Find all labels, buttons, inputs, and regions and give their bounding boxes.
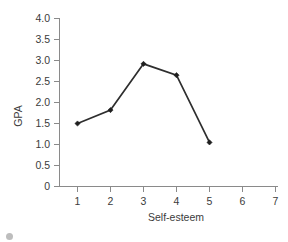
x-tick-label: 7 bbox=[273, 195, 279, 207]
y-axis-tick-labels: 4.0 3.5 3.0 2.5 2.0 1.5 1.0 0.5 0 bbox=[35, 12, 50, 192]
y-tick-label: 0 bbox=[44, 180, 50, 192]
line-chart: 4.0 3.5 3.0 2.5 2.0 1.5 1.0 0.5 0 1 2 3 … bbox=[0, 0, 288, 242]
caption-strip bbox=[0, 230, 288, 242]
x-tick-label: 4 bbox=[174, 195, 180, 207]
y-tick-label: 3.0 bbox=[35, 54, 50, 66]
x-tick-label: 1 bbox=[75, 195, 81, 207]
x-tick-label: 5 bbox=[207, 195, 213, 207]
x-tick-label: 6 bbox=[240, 195, 246, 207]
y-tick-label: 3.5 bbox=[35, 33, 50, 45]
y-tick-label: 0.5 bbox=[35, 159, 50, 171]
chart-figure: 4.0 3.5 3.0 2.5 2.0 1.5 1.0 0.5 0 1 2 3 … bbox=[0, 0, 288, 242]
y-axis-title: GPA bbox=[12, 105, 24, 126]
y-tick-label: 1.5 bbox=[35, 117, 50, 129]
x-axis-title: Self-esteem bbox=[148, 211, 204, 223]
x-tick-label: 2 bbox=[108, 195, 114, 207]
y-tick-label: 1.0 bbox=[35, 138, 50, 150]
y-tick-label: 4.0 bbox=[35, 12, 50, 24]
y-tick-label: 2.5 bbox=[35, 75, 50, 87]
y-tick-label: 2.0 bbox=[35, 96, 50, 108]
caption-bullet-icon bbox=[6, 233, 13, 240]
x-tick-label: 3 bbox=[141, 195, 147, 207]
